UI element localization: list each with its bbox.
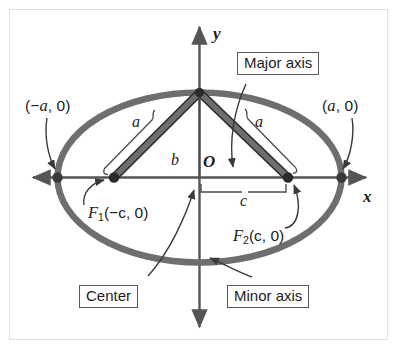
diagram-canvas xyxy=(0,0,399,352)
vertex-right-suffix: , 0) xyxy=(336,97,359,114)
vertex-left-var: a xyxy=(39,96,47,115)
focus-2-symbol: F xyxy=(233,226,243,245)
top-vertex-point xyxy=(195,88,204,97)
vertex-left-prefix: (− xyxy=(25,97,39,114)
vertex-left-suffix: , 0) xyxy=(48,97,71,114)
vertex-right-label: (a, 0) xyxy=(322,98,358,115)
pointer-vertex-left xyxy=(46,118,55,169)
measure-a-right-label: a xyxy=(255,114,263,130)
callout-center: Center xyxy=(79,285,138,308)
focus-1-symbol: F xyxy=(88,203,98,222)
focus-1-label: F1(−c, 0) xyxy=(88,205,148,223)
vertex-right-point xyxy=(336,172,346,182)
focus-left-point xyxy=(109,172,119,182)
ellipse-figure: y x O (−a, 0) (a, 0) a a b c F1(−c, 0) F… xyxy=(0,0,399,352)
focus-1-coords: (−c, 0) xyxy=(104,204,148,221)
callout-minor-axis: Minor axis xyxy=(227,285,309,308)
pointer-vertex-right xyxy=(343,118,353,169)
measure-b-label: b xyxy=(171,152,179,168)
measure-c-label: c xyxy=(240,193,247,209)
vertex-right-var: a xyxy=(327,96,335,115)
vertex-left-label: (−a, 0) xyxy=(25,98,71,115)
focus-right-point xyxy=(283,172,293,182)
bracket-c xyxy=(201,184,286,192)
vertex-left-point xyxy=(52,172,62,182)
measure-a-left-label: a xyxy=(132,114,140,130)
y-axis-label: y xyxy=(213,25,221,42)
origin-label: O xyxy=(203,153,215,170)
focus-2-label: F2(c, 0) xyxy=(233,228,284,246)
pointer-focus-left xyxy=(84,180,104,205)
callout-major-axis: Major axis xyxy=(237,52,319,75)
x-axis-label: x xyxy=(363,188,372,205)
pointer-focus-right xyxy=(285,185,298,228)
focus-2-coords: (c, 0) xyxy=(249,227,284,244)
